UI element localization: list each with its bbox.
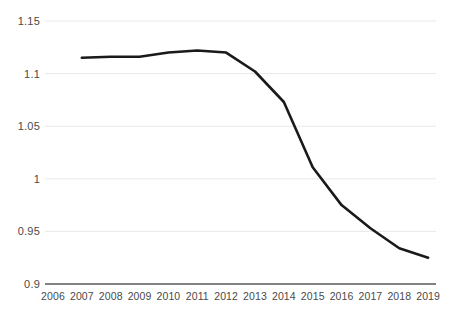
x-tick-label: 2010 [157, 290, 181, 302]
data-series [82, 50, 428, 257]
x-tick-label: 2014 [272, 290, 296, 302]
x-tick-label: 2011 [186, 290, 209, 302]
x-tick-label: 2009 [128, 290, 152, 302]
x-tick-label: 2019 [416, 290, 440, 302]
x-tick-label: 2017 [359, 290, 383, 302]
x-tick-label: 2015 [301, 290, 325, 302]
series-line [82, 50, 428, 257]
x-tick-label: 2018 [387, 290, 411, 302]
gridlines [45, 21, 436, 231]
line-chart: 1.151.11.0510.950.9 20062007200820092010… [0, 0, 452, 314]
x-tick-label: 2008 [99, 290, 123, 302]
plot-area [0, 0, 452, 314]
x-tick-label: 2007 [70, 290, 94, 302]
x-tick-label: 2006 [41, 290, 65, 302]
x-tick-label: 2016 [330, 290, 354, 302]
x-tick-label: 2013 [243, 290, 267, 302]
x-tick-label: 2012 [214, 290, 238, 302]
